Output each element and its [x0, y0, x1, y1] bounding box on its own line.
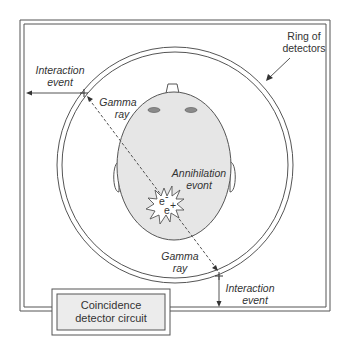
annihilation-line1: Annihilation: [171, 167, 226, 179]
head-outline: [117, 92, 231, 240]
interaction-top-line2: event: [47, 76, 74, 88]
interaction-bottom-line2: event: [242, 294, 269, 306]
annihilation-line2: evont: [186, 179, 213, 191]
coincidence-line1: Coincidence: [81, 299, 142, 311]
eye-left: [148, 108, 160, 113]
positron-sup: +: [170, 199, 176, 211]
gamma-top-line1: Gamma: [99, 96, 137, 108]
coincidence-line2: detector circuit: [75, 312, 147, 324]
interaction-marker-top: [26, 89, 88, 97]
gamma-arrowhead-top: [87, 96, 93, 102]
pet-scanner-diagram: Ring of detectors Interaction event Gamm…: [0, 0, 347, 343]
gamma-arrowhead-bottom: [212, 265, 218, 271]
gamma-bottom-line2: ray: [173, 262, 188, 274]
ring-label-line2: detectors: [282, 42, 325, 54]
interaction-bottom-line1: Interaction: [225, 282, 274, 294]
interaction-top-line1: Interaction: [35, 64, 84, 76]
gamma-top-line2: ray: [115, 108, 130, 120]
arrow-left-icon: [26, 91, 32, 96]
interaction-marker-bottom: [215, 272, 223, 307]
ring-label-line1: Ring of: [287, 30, 320, 42]
gamma-bottom-line1: Gamma: [161, 250, 199, 262]
eye-right: [185, 108, 197, 113]
arrow-down-icon: [217, 301, 222, 307]
electron-sup: -: [165, 190, 169, 202]
